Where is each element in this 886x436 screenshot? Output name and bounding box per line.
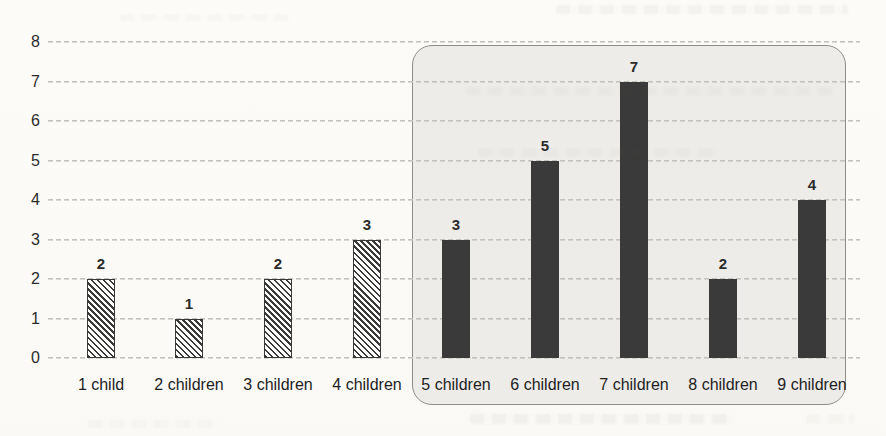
bleed-through-artifact	[88, 420, 218, 428]
category-label: 5 children	[413, 374, 499, 396]
y-axis-tick-label: 3	[8, 230, 40, 250]
bar-3-children	[264, 279, 292, 358]
y-axis-tick-label: 6	[8, 111, 40, 131]
y-axis-tick-label: 0	[8, 348, 40, 368]
bar-value-label: 4	[792, 176, 832, 194]
category-label: 9 children	[769, 374, 855, 396]
bar-9-children	[798, 200, 826, 358]
category-label: 2 children	[146, 374, 232, 396]
bar-value-label: 1	[169, 295, 209, 313]
bar-1-child	[87, 279, 115, 358]
bar-value-label: 3	[436, 216, 476, 234]
y-axis-tick-label: 2	[8, 269, 40, 289]
category-label: 7 children	[591, 374, 677, 396]
bar-5-children	[442, 240, 470, 359]
y-axis-tick-label: 4	[8, 190, 40, 210]
bar-value-label: 2	[81, 255, 121, 273]
scanned-book-page: 012345678 212335724 1 child2 children3 c…	[0, 0, 886, 436]
bleed-through-artifact	[470, 414, 732, 424]
category-label: 8 children	[680, 374, 766, 396]
bar-2-children	[175, 319, 203, 359]
bar-value-label: 3	[347, 216, 387, 234]
bar-value-label: 2	[258, 255, 298, 273]
bar-4-children	[353, 240, 381, 359]
bleed-through-artifact	[806, 414, 854, 424]
category-label: 1 child	[58, 374, 144, 396]
bar-7-children	[620, 82, 648, 359]
gridline-5	[48, 160, 860, 162]
category-label: 4 children	[324, 374, 410, 396]
bar-8-children	[709, 279, 737, 358]
bar-6-children	[531, 161, 559, 359]
gridline-7	[48, 81, 860, 83]
bar-value-label: 2	[703, 255, 743, 273]
gridline-4	[48, 199, 860, 201]
bleed-through-artifact	[478, 148, 718, 157]
category-label: 6 children	[502, 374, 588, 396]
bleed-through-artifact	[556, 5, 848, 14]
bar-value-label: 7	[614, 58, 654, 76]
category-label: 3 children	[235, 374, 321, 396]
bleed-through-artifact	[120, 14, 290, 21]
y-axis-tick-label: 5	[8, 151, 40, 171]
y-axis-tick-label: 1	[8, 309, 40, 329]
gridline-8	[48, 41, 860, 43]
y-axis-tick-label: 8	[8, 32, 40, 52]
y-axis-tick-label: 7	[8, 72, 40, 92]
bleed-through-artifact	[466, 86, 834, 96]
gridline-6	[48, 120, 860, 122]
